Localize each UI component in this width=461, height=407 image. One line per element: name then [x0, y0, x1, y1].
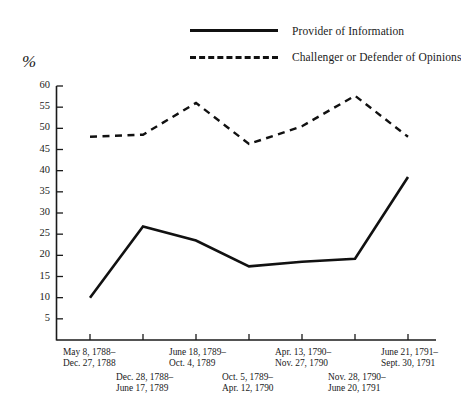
- x-axis-tick-label-line: Nov. 27, 1790: [275, 358, 331, 369]
- y-axis-tick-label: 45: [26, 143, 50, 154]
- x-axis-tick-label: May 8, 1788–Dec. 27, 1788: [63, 347, 116, 370]
- x-axis-ticks: [90, 334, 408, 340]
- x-axis-tick-label: June 21, 1791–Sept. 30, 1791: [381, 347, 438, 370]
- y-axis-tick-label: 15: [26, 270, 50, 281]
- x-axis-tick-label-line: June 17, 1789: [116, 383, 173, 394]
- x-axis-tick-label-line: Dec. 27, 1788: [63, 358, 116, 369]
- y-axis-tick-label: 5: [26, 312, 50, 323]
- x-axis-tick-label-line: Nov. 28, 1790–: [328, 372, 386, 383]
- y-axis-tick-label: 20: [26, 248, 50, 259]
- y-axis-tick-label: 50: [26, 121, 50, 132]
- x-axis-tick-label-line: May 8, 1788–: [63, 347, 116, 358]
- y-axis-tick-label: 40: [26, 164, 50, 175]
- x-axis-tick-label-line: Apr. 13, 1790–: [275, 347, 331, 358]
- x-axis-tick-label-line: Sept. 30, 1791: [381, 358, 438, 369]
- y-axis-tick-label: 25: [26, 227, 50, 238]
- y-axis-ticks: [57, 86, 64, 319]
- x-axis-tick-label-line: June 18, 1789–: [169, 347, 226, 358]
- x-axis-tick-label-line: June 21, 1791–: [381, 347, 438, 358]
- x-axis-tick-label-line: Dec. 28, 1788–: [116, 372, 173, 383]
- y-axis-tick-label: 30: [26, 206, 50, 217]
- x-axis-tick-label-line: Oct. 4, 1789: [169, 358, 226, 369]
- x-axis-tick-label: June 18, 1789–Oct. 4, 1789: [169, 347, 226, 370]
- x-axis-tick-label: Nov. 28, 1790–June 20, 1791: [328, 372, 386, 395]
- x-axis-tick-label-line: Oct. 5, 1789–: [222, 372, 274, 383]
- y-axis-tick-label: 60: [26, 79, 50, 90]
- series-line-challenger-or-defender: [90, 96, 408, 144]
- y-axis-tick-label: 10: [26, 291, 50, 302]
- x-axis-tick-label: Oct. 5, 1789–Apr. 12, 1790: [222, 372, 274, 395]
- x-axis-tick-label-line: June 20, 1791: [328, 383, 386, 394]
- x-axis-tick-label: Dec. 28, 1788–June 17, 1789: [116, 372, 173, 395]
- x-axis-tick-label-line: Apr. 12, 1790: [222, 383, 274, 394]
- x-axis-tick-label: Apr. 13, 1790–Nov. 27, 1790: [275, 347, 331, 370]
- y-axis-tick-label: 35: [26, 185, 50, 196]
- series-line-provider-of-information: [90, 177, 408, 298]
- y-axis-tick-label: 55: [26, 100, 50, 111]
